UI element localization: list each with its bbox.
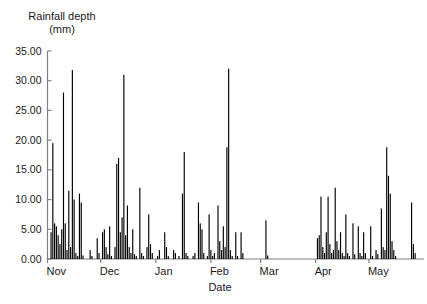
y-tick-label: 25.00 [0, 105, 42, 116]
bar [63, 93, 64, 259]
bar [223, 226, 224, 259]
bar [393, 250, 394, 259]
y-tick-label: 5.00 [0, 224, 42, 235]
bar [58, 235, 59, 259]
bar [338, 250, 339, 259]
x-tick-label: May [368, 265, 389, 277]
x-tick-label: Apr [315, 265, 332, 277]
bar [214, 253, 215, 259]
bars [50, 69, 415, 259]
bar [50, 232, 51, 259]
bar [97, 238, 98, 259]
bar [59, 244, 60, 259]
bar [219, 241, 220, 259]
bar [132, 229, 133, 259]
bar [237, 256, 238, 259]
bar [370, 226, 371, 259]
bar [381, 208, 382, 259]
bar [209, 214, 210, 259]
bar [388, 176, 389, 259]
bar [384, 250, 385, 259]
bar [159, 250, 160, 259]
bar [324, 253, 325, 259]
bar [203, 253, 204, 259]
y-tick-label: 20.00 [0, 135, 42, 146]
bar [107, 254, 108, 259]
bar [413, 244, 414, 259]
bar [74, 200, 75, 259]
bar [390, 194, 391, 259]
bar [228, 69, 229, 259]
x-tick-label: Mar [260, 265, 279, 277]
bar [386, 147, 387, 259]
bar [139, 188, 140, 259]
bar [342, 253, 343, 259]
bar [143, 256, 144, 259]
bar [164, 232, 165, 259]
bar [118, 158, 119, 259]
bar [54, 223, 55, 259]
bar [77, 256, 78, 259]
bar [194, 253, 195, 259]
bar [72, 70, 73, 259]
bar [52, 143, 53, 259]
bar [102, 232, 103, 259]
bar [347, 253, 348, 259]
y-tick-label: 15.00 [0, 164, 42, 175]
bar [127, 206, 128, 259]
bar [178, 256, 179, 259]
bar [232, 256, 233, 259]
x-tick-label: Nov [47, 265, 67, 277]
bar [335, 188, 336, 259]
bar [65, 223, 66, 259]
bar [187, 256, 188, 259]
bar [184, 152, 185, 259]
bar [322, 247, 323, 259]
bar [391, 241, 392, 259]
bar [226, 147, 227, 259]
bar [193, 256, 194, 259]
bar [141, 253, 142, 259]
bar [329, 244, 330, 259]
bar [328, 197, 329, 259]
bar [90, 250, 91, 259]
bar [146, 247, 147, 259]
bar [267, 255, 268, 259]
bar [210, 250, 211, 259]
x-axis-title: Date [190, 281, 250, 294]
bar [415, 253, 416, 259]
bar [70, 247, 71, 259]
plot-area [0, 0, 427, 304]
bar [136, 256, 137, 259]
bar [98, 253, 99, 259]
bar [395, 256, 396, 259]
rainfall-bar-chart: Rainfall depth(mm) Date 0.005.0010.0015.… [0, 0, 427, 304]
bar [157, 256, 158, 259]
bar [79, 194, 80, 259]
bar [114, 247, 115, 259]
bar [372, 256, 373, 259]
bar [75, 253, 76, 259]
bar [359, 253, 360, 259]
bar [152, 253, 153, 259]
bar [91, 256, 92, 259]
bar [111, 256, 112, 259]
y-tick-label: 30.00 [0, 75, 42, 86]
bar [134, 254, 135, 259]
bar [125, 235, 126, 259]
bar [81, 203, 82, 259]
bar [344, 256, 345, 259]
bar [265, 220, 266, 259]
bar [82, 255, 83, 259]
bar [317, 238, 318, 259]
bar [352, 223, 353, 259]
bar [363, 232, 364, 259]
y-tick-label: 10.00 [0, 194, 42, 205]
bar [361, 256, 362, 259]
bar [365, 253, 366, 259]
bar [201, 229, 202, 259]
bar [326, 232, 327, 259]
bar [333, 250, 334, 259]
bar [377, 254, 378, 259]
bar [349, 256, 350, 259]
